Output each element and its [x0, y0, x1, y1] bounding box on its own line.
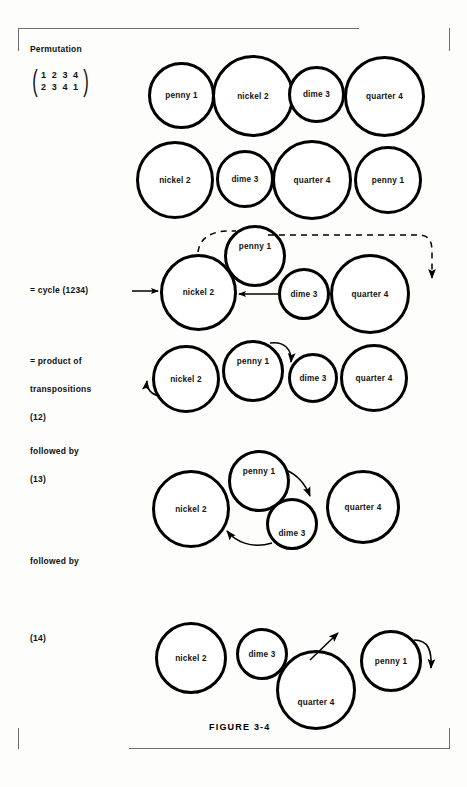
label-followed-by-1: followed by: [30, 446, 79, 456]
coin-label: quarter 4: [294, 176, 331, 185]
coin-transposition-12-nickel: nickel 2: [152, 345, 220, 413]
matrix-left-paren: (: [32, 68, 38, 94]
label-transposition-12: (12): [30, 412, 46, 422]
coin-label: quarter 4: [345, 503, 382, 512]
coin-permuted-arrangement-nickel: nickel 2: [136, 141, 214, 219]
coin-permuted-arrangement-quarter: quarter 4: [272, 140, 352, 220]
coin-transposition-14-nickel: nickel 2: [155, 622, 227, 694]
coin-label: penny 1: [243, 467, 275, 476]
matrix-right-paren: ): [83, 68, 89, 94]
coin-label: nickel 2: [175, 654, 207, 663]
coin-original-arrangement-nickel: nickel 2: [212, 55, 294, 137]
coin-transposition-13-nickel: nickel 2: [152, 470, 230, 548]
coin-label: dime 3: [231, 175, 258, 184]
label-followed-by-2: followed by: [30, 556, 79, 566]
coin-transposition-13-dime: dime 3: [266, 498, 318, 550]
coin-permuted-arrangement-dime: dime 3: [216, 150, 274, 208]
coin-label: nickel 2: [170, 375, 202, 384]
corner-bracket-bottom-right: [129, 728, 450, 749]
coin-transposition-12-penny: penny 1: [222, 340, 284, 402]
coin-label: nickel 2: [175, 505, 207, 514]
coin-original-arrangement-dime: dime 3: [288, 66, 345, 123]
coin-label: penny 1: [237, 357, 269, 366]
matrix-top-row: 1 2 3 4: [41, 69, 80, 82]
label-transposition-13: (13): [30, 474, 46, 484]
corner-bracket-bottom-left: [18, 728, 19, 749]
coin-cycle-1234-nickel: nickel 2: [160, 254, 237, 331]
coin-label: quarter 4: [352, 290, 389, 299]
label-transpositions: transpositions: [30, 384, 91, 394]
label-product-of: = product of: [30, 356, 82, 366]
coin-transposition-14-penny: penny 1: [360, 630, 422, 692]
figure-page: Permutation ( 1 2 3 4 2 3 4 1 ) = cycle …: [0, 0, 467, 787]
figure-caption: FIGURE 3-4: [209, 722, 271, 732]
coin-transposition-12-quarter: quarter 4: [340, 344, 408, 412]
matrix-bottom-row: 2 3 4 1: [41, 81, 80, 94]
coin-label: nickel 2: [159, 176, 191, 185]
coin-label: quarter 4: [366, 92, 403, 101]
coin-transposition-13-quarter: quarter 4: [326, 470, 400, 544]
coin-transposition-14-quarter: quarter 4: [276, 650, 356, 730]
coin-transposition-12-dime: dime 3: [288, 353, 338, 403]
coin-label: quarter 4: [298, 698, 335, 707]
coin-original-arrangement-penny: penny 1: [148, 62, 215, 129]
coin-label: nickel 2: [237, 92, 269, 101]
coin-cycle-1234-quarter: quarter 4: [330, 254, 410, 334]
coin-label: dime 3: [303, 90, 330, 99]
coin-label: penny 1: [165, 91, 197, 100]
label-permutation: Permutation: [30, 44, 82, 54]
corner-bracket-top-right: [449, 28, 450, 51]
coin-label: penny 1: [239, 242, 271, 251]
label-transposition-14: (14): [30, 633, 46, 643]
coin-label: quarter 4: [356, 374, 393, 383]
coin-permuted-arrangement-penny: penny 1: [354, 146, 422, 214]
coin-label: dime 3: [248, 650, 275, 659]
coin-label: dime 3: [290, 290, 317, 299]
coin-cycle-1234-dime: dime 3: [278, 268, 330, 320]
coin-original-arrangement-quarter: quarter 4: [344, 56, 425, 137]
coin-label: dime 3: [278, 529, 305, 538]
coin-label: penny 1: [375, 657, 407, 666]
coin-label: dime 3: [299, 374, 326, 383]
arrow-dime-to-nickel-t13: [227, 531, 272, 545]
permutation-matrix: ( 1 2 3 4 2 3 4 1 ): [30, 68, 91, 94]
coin-label: penny 1: [372, 176, 404, 185]
coin-label: nickel 2: [183, 288, 215, 297]
label-cycle: = cycle (1234): [30, 285, 88, 295]
